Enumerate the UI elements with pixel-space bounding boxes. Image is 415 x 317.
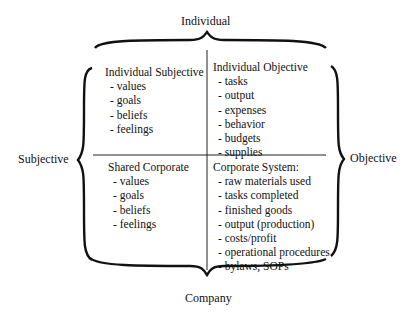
left-brace (78, 68, 92, 260)
quadrant-corporate-system: Corporate System: - raw materials used -… (213, 160, 330, 274)
list-item: - budgets (218, 131, 308, 145)
quadrant-individual-objective: Individual Objective - tasks - output - … (213, 60, 308, 159)
top-brace (95, 32, 326, 48)
list-item: - beliefs (113, 203, 189, 217)
list-item: - beliefs (110, 108, 204, 122)
list-item: - operational procedures (218, 245, 330, 259)
list-item: - output (production) (218, 217, 330, 231)
quadrant-title: Individual Subjective (105, 65, 204, 79)
quadrant-title: Individual Objective (213, 60, 308, 74)
list-item: - finished goods (218, 203, 330, 217)
list-item: - tasks (218, 74, 308, 88)
list-item: - behavior (218, 117, 308, 131)
quadrant-shared-corporate: Shared Corporate - values - goals - beli… (108, 160, 189, 231)
list-item: - bylaws, SOPs (218, 259, 330, 273)
list-item: - values (110, 79, 204, 93)
list-item: - output (218, 88, 308, 102)
list-item: - costs/profit (218, 231, 330, 245)
axis-label-bottom: Company (185, 291, 232, 306)
list-item: - feelings (113, 217, 189, 231)
list-item: - expenses (218, 103, 308, 117)
list-item: - goals (110, 93, 204, 107)
axis-label-left: Subjective (18, 152, 69, 167)
axis-label-top: Individual (181, 14, 230, 29)
quadrant-title: Shared Corporate (108, 160, 189, 174)
list-item: - feelings (110, 122, 204, 136)
quadrant-title: Corporate System: (213, 160, 330, 174)
list-item: - tasks completed (218, 188, 330, 202)
axis-label-right: Objective (350, 151, 397, 166)
list-item: - goals (113, 188, 189, 202)
right-brace (331, 66, 344, 256)
list-item: - raw materials used (218, 174, 330, 188)
list-item: - supplies (218, 145, 308, 159)
quadrant-individual-subjective: Individual Subjective - values - goals -… (105, 65, 204, 136)
list-item: - values (113, 174, 189, 188)
